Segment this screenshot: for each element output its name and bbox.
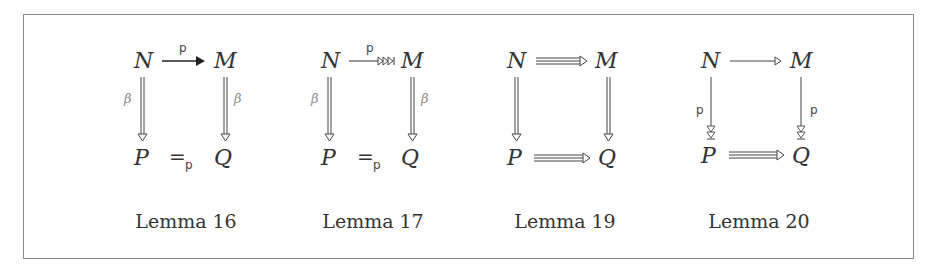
- arrow-left-double-head-icon: [707, 77, 715, 139]
- node-P: P: [506, 145, 523, 170]
- arrow-right-double-head-icon: [797, 77, 805, 139]
- equals-symbol: =: [169, 145, 186, 169]
- commutative-diagrams: N M P Q p β β = p N M P Q: [0, 0, 941, 275]
- arrow-label-beta: β: [310, 91, 319, 106]
- node-M: M: [594, 48, 618, 73]
- node-P: P: [133, 145, 150, 170]
- arrow-top-open-icon: [730, 57, 781, 65]
- arrow-right-icon: [221, 77, 230, 141]
- diagram-lemma-19: N M P Q: [506, 48, 618, 170]
- arrow-top-icon: [162, 56, 205, 66]
- arrow-right-icon: [604, 77, 613, 141]
- arrow-label-p: p: [179, 41, 187, 55]
- node-M: M: [400, 48, 424, 73]
- node-N: N: [320, 48, 341, 73]
- caption-lemma-19: Lemma 19: [514, 210, 615, 232]
- equals-subscript: p: [185, 158, 193, 172]
- arrow-label-p: p: [366, 41, 374, 55]
- equals-subscript: p: [373, 158, 381, 172]
- arrow-label-p: p: [810, 103, 818, 117]
- arrow-bottom-triple-icon: [534, 153, 590, 163]
- arrow-label-p: p: [696, 103, 704, 117]
- caption-lemma-16: Lemma 16: [135, 210, 236, 232]
- diagram-lemma-20: N M P Q p p: [696, 48, 818, 168]
- arrow-left-icon: [325, 77, 334, 141]
- node-N: N: [133, 48, 154, 73]
- caption-lemma-20: Lemma 20: [708, 210, 809, 232]
- diagram-lemma-17: N M P Q p β β = p: [310, 41, 429, 172]
- diagram-lemma-16: N M P Q p β β = p: [123, 41, 242, 172]
- arrow-label-beta: β: [233, 91, 242, 106]
- node-P: P: [700, 143, 717, 168]
- arrow-right-icon: [408, 77, 417, 141]
- arrow-label-beta: β: [123, 91, 132, 106]
- arrow-label-beta: β: [420, 91, 429, 106]
- arrow-left-icon: [138, 77, 147, 141]
- arrow-top-triple-icon: [536, 56, 587, 66]
- arrow-top-triple-head-icon: [349, 57, 394, 65]
- node-M: M: [789, 48, 813, 73]
- arrow-left-icon: [512, 77, 521, 141]
- node-P: P: [320, 145, 337, 170]
- arrow-bottom-triple-icon: [729, 150, 784, 160]
- node-M: M: [213, 48, 237, 73]
- caption-lemma-17: Lemma 17: [322, 210, 423, 232]
- node-N: N: [700, 48, 721, 73]
- node-Q: Q: [792, 143, 810, 168]
- equals-symbol: =: [357, 145, 374, 169]
- node-Q: Q: [598, 145, 616, 170]
- node-Q: Q: [401, 145, 419, 170]
- node-N: N: [506, 48, 527, 73]
- node-Q: Q: [214, 145, 232, 170]
